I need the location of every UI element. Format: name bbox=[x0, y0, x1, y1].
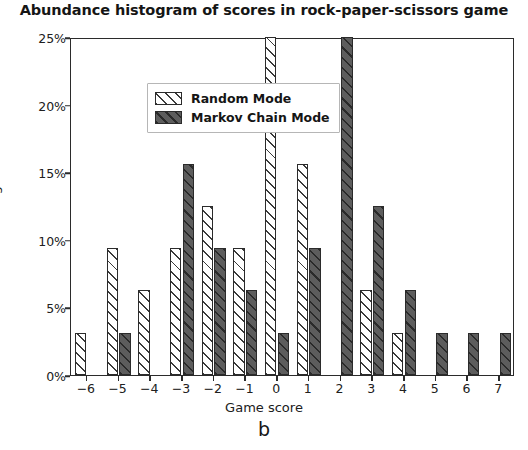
x-tick-mark bbox=[181, 376, 183, 381]
bar-markov--5 bbox=[119, 333, 130, 375]
x-tick-mark bbox=[340, 376, 342, 381]
bar-random-3 bbox=[360, 290, 371, 375]
bar-markov-4 bbox=[405, 290, 416, 375]
bar-markov--3 bbox=[183, 164, 194, 375]
legend-label-markov: Markov Chain Mode bbox=[191, 110, 330, 125]
legend-swatch-markov-icon bbox=[155, 111, 182, 124]
x-tick-mark bbox=[276, 376, 278, 381]
chart-legend: Random Mode Markov Chain Mode bbox=[147, 83, 340, 133]
bar-random--3 bbox=[170, 248, 181, 375]
legend-item-random: Random Mode bbox=[155, 89, 330, 108]
bar-markov-1 bbox=[309, 248, 320, 375]
bar-random-4 bbox=[392, 333, 403, 375]
x-tick-mark bbox=[498, 376, 500, 381]
x-tick-mark bbox=[213, 376, 215, 381]
y-tick-label: 5% bbox=[0, 301, 66, 316]
bar-markov-0 bbox=[278, 333, 289, 375]
chart-figure: Abundance histogram of scores in rock-pa… bbox=[0, 0, 528, 450]
bar-random--1 bbox=[233, 248, 244, 375]
panel-letter: b bbox=[0, 418, 528, 440]
bar-random-1 bbox=[297, 164, 308, 375]
y-tick-label: 10% bbox=[0, 233, 66, 248]
bar-markov-2 bbox=[341, 37, 352, 375]
y-tick-label: 15% bbox=[0, 166, 66, 181]
x-tick-mark bbox=[371, 376, 373, 381]
bar-random--6 bbox=[75, 333, 86, 375]
bar-random--2 bbox=[202, 206, 213, 375]
x-tick-mark bbox=[466, 376, 468, 381]
x-tick-mark bbox=[118, 376, 120, 381]
y-tick-label: 0% bbox=[0, 369, 66, 384]
bar-markov-7 bbox=[500, 333, 511, 375]
bar-random--5 bbox=[107, 248, 118, 375]
x-tick-label: 7 bbox=[478, 381, 518, 396]
y-tick-label: 20% bbox=[0, 98, 66, 113]
x-tick-mark bbox=[435, 376, 437, 381]
plot-area: Random Mode Markov Chain Mode bbox=[70, 38, 514, 376]
x-axis-label: Game score bbox=[0, 400, 528, 415]
chart-title: Abundance histogram of scores in rock-pa… bbox=[0, 2, 528, 18]
bar-markov-3 bbox=[373, 206, 384, 375]
bar-markov--2 bbox=[214, 248, 225, 375]
bar-markov-6 bbox=[468, 333, 479, 375]
bar-random--4 bbox=[138, 290, 149, 375]
x-tick-mark bbox=[244, 376, 246, 381]
bar-markov-5 bbox=[436, 333, 447, 375]
legend-swatch-random-icon bbox=[155, 92, 182, 105]
x-tick-mark bbox=[308, 376, 310, 381]
legend-item-markov: Markov Chain Mode bbox=[155, 108, 330, 127]
legend-label-random: Random Mode bbox=[191, 91, 291, 106]
y-tick-label: 25% bbox=[0, 31, 66, 46]
bar-markov--1 bbox=[246, 290, 257, 375]
x-tick-mark bbox=[149, 376, 151, 381]
x-tick-mark bbox=[86, 376, 88, 381]
x-tick-mark bbox=[403, 376, 405, 381]
